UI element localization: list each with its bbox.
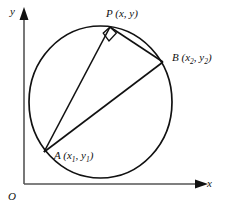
figure-canvas bbox=[0, 0, 225, 211]
point-a-paren-open: (x bbox=[61, 149, 72, 161]
y-axis-label: y bbox=[10, 6, 15, 17]
origin-label: O bbox=[8, 191, 16, 202]
point-a-sub-y: 1 bbox=[86, 155, 90, 164]
point-a-sub-x: 1 bbox=[72, 155, 76, 164]
point-a-label: A (x1, y1) bbox=[54, 150, 93, 161]
point-p-label: P (x, y) bbox=[106, 8, 138, 19]
point-b-paren-open: (x bbox=[179, 51, 190, 63]
y-axis-arrow-icon bbox=[20, 7, 29, 20]
point-p-coords: (x, y) bbox=[113, 7, 138, 19]
geometry-figure: y x O P (x, y) B (x2, y2) A (x1, y1) bbox=[0, 0, 225, 211]
point-b-comma: , y bbox=[194, 51, 204, 63]
segment-pa bbox=[44, 27, 110, 152]
point-a-comma: , y bbox=[76, 149, 86, 161]
point-a-paren-close: ) bbox=[90, 149, 94, 161]
point-b-name: B bbox=[172, 51, 179, 63]
segment-ab bbox=[44, 62, 163, 152]
segment-pb bbox=[110, 27, 163, 62]
point-b-sub-x: 2 bbox=[190, 57, 194, 66]
circle-outline bbox=[29, 26, 172, 178]
x-axis-label: x bbox=[207, 178, 212, 189]
point-b-sub-y: 2 bbox=[204, 57, 208, 66]
point-b-label: B (x2, y2) bbox=[172, 52, 212, 63]
point-b-paren-close: ) bbox=[208, 51, 212, 63]
